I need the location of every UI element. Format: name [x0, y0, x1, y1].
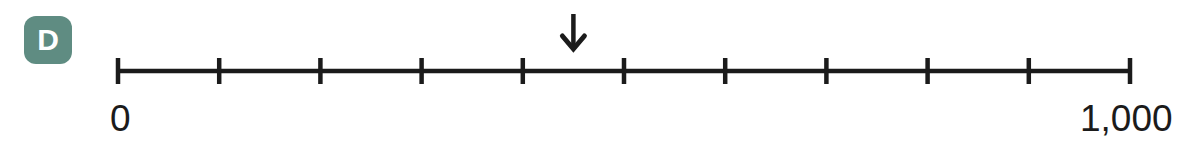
axis-min-label: 0 — [110, 100, 131, 137]
number-line-figure — [0, 0, 1190, 154]
number-line-group — [118, 58, 1130, 84]
value-marker-arrow-icon — [562, 14, 584, 49]
number-line-svg — [0, 0, 1190, 154]
axis-max-label: 1,000 — [1080, 100, 1173, 137]
numberline-question-panel: D 0 1,000 — [0, 0, 1190, 154]
